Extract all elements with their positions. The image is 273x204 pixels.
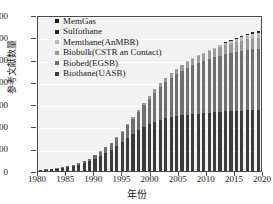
bar-column	[229, 40, 232, 171]
bar-segment	[208, 113, 211, 171]
bar-segment	[175, 116, 178, 171]
bar-column	[170, 73, 173, 171]
x-axis-tick-mark	[93, 172, 94, 176]
bar-segment	[208, 51, 211, 59]
legend-item: Biobed(EGSB)	[55, 58, 162, 69]
bar-segment	[218, 56, 221, 112]
y-axis-tick-mark	[31, 61, 36, 62]
bar-column	[235, 38, 238, 171]
bar-segment	[126, 125, 129, 138]
x-axis-tick-mark	[206, 172, 207, 176]
bar-column	[131, 117, 134, 171]
bar-segment	[218, 47, 221, 55]
bar-column	[44, 169, 47, 171]
bar-segment	[126, 138, 129, 171]
bar-column	[175, 69, 178, 171]
bar-segment	[121, 132, 124, 142]
legend-label: Biobed(EGSB)	[63, 59, 118, 68]
bar-segment	[66, 167, 69, 171]
bar-column	[153, 89, 156, 171]
bar-column	[142, 103, 145, 171]
bar-segment	[224, 45, 227, 54]
bar-segment	[164, 118, 167, 171]
legend-label: Biobulk(CSTR an Contact)	[63, 48, 162, 57]
bar-segment	[159, 120, 162, 171]
bar-column	[159, 83, 162, 171]
legend-item: Biobulk(CSTR an Contact)	[55, 48, 162, 59]
bar-column	[121, 131, 124, 171]
bar-segment	[251, 38, 254, 49]
bar-segment	[153, 122, 156, 171]
bar-segment	[121, 142, 124, 171]
bar-column	[88, 159, 91, 171]
bar-segment	[235, 42, 238, 52]
bar-segment	[186, 68, 189, 115]
reference-count-bar-chart: 参考文献数量 0100200300400500600700 1980198519…	[0, 0, 273, 204]
y-axis-tick-label: 200	[0, 123, 8, 132]
bar-segment	[93, 159, 96, 171]
y-axis-tick-mark	[31, 83, 36, 84]
bar-segment	[218, 112, 221, 171]
y-axis-tick-mark	[31, 150, 36, 151]
bar-column	[246, 34, 249, 171]
bar-segment	[175, 74, 178, 116]
bar-segment	[115, 146, 118, 171]
x-axis-tick-mark	[121, 172, 122, 176]
bar-segment	[186, 115, 189, 171]
x-axis-tick-label: 1990	[78, 175, 108, 184]
bar-column	[61, 167, 64, 171]
bar-segment	[251, 110, 254, 171]
bar-segment	[142, 105, 145, 127]
bar-column	[251, 32, 254, 171]
bar-column	[104, 147, 107, 171]
bar-segment	[104, 153, 107, 171]
bar-segment	[88, 161, 91, 171]
bar-segment	[148, 99, 151, 125]
bar-segment	[148, 124, 151, 171]
legend-swatch-icon	[55, 40, 59, 44]
chart-legend: MemGasSulfothaneMemthane(AnMBR)Biobulk(C…	[55, 16, 162, 79]
bar-column	[115, 137, 118, 171]
bar-segment	[208, 59, 211, 113]
x-axis-tick-label: 1980	[22, 175, 52, 184]
bar-column	[72, 165, 75, 171]
bar-segment	[180, 71, 183, 116]
bar-column	[202, 53, 205, 171]
bar-column	[83, 161, 86, 171]
bar-segment	[235, 52, 238, 111]
bar-column	[93, 155, 96, 171]
x-axis-tick-mark	[178, 172, 179, 176]
bar-segment	[170, 117, 173, 171]
bar-segment	[170, 78, 173, 117]
bar-segment	[229, 53, 232, 111]
bar-column	[99, 151, 102, 171]
legend-swatch-icon	[55, 72, 59, 76]
bar-segment	[229, 44, 232, 53]
bar-segment	[110, 150, 113, 171]
bar-column	[110, 143, 113, 172]
bar-column	[148, 96, 151, 171]
bar-column	[126, 124, 129, 171]
y-axis-tick-mark	[31, 105, 36, 106]
bar-segment	[77, 165, 80, 171]
bar-segment	[240, 111, 243, 171]
bar-column	[186, 61, 189, 171]
x-axis-tick-label: 2010	[191, 175, 221, 184]
bar-segment	[131, 134, 134, 171]
legend-swatch-icon	[55, 61, 59, 65]
y-axis-tick-label: 0	[0, 168, 8, 177]
x-axis-tick-mark	[262, 172, 263, 176]
bar-segment	[240, 41, 243, 51]
bar-column	[218, 45, 221, 171]
x-axis-tick-label: 2005	[163, 175, 193, 184]
x-axis-tick-label: 1995	[106, 175, 136, 184]
bar-column	[180, 65, 183, 171]
legend-label: Sulfothane	[63, 27, 102, 36]
bar-segment	[159, 87, 162, 120]
bar-segment	[197, 56, 200, 63]
bar-segment	[202, 54, 205, 61]
legend-item: Memthane(AnMBR)	[55, 37, 162, 48]
bar-column	[208, 50, 211, 171]
bar-segment	[137, 130, 140, 171]
bar-column	[39, 170, 42, 171]
